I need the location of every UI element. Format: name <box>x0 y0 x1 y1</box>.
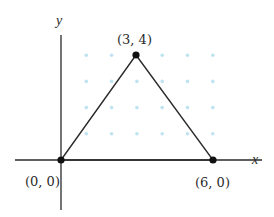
vertex-label-3-4: (3, 4) <box>117 32 152 47</box>
grid-dot <box>211 80 215 84</box>
vertex-3-4 <box>132 51 139 58</box>
grid-dot <box>211 132 215 136</box>
grid-dot <box>211 53 215 57</box>
grid-dot <box>160 80 164 84</box>
vertex-6-0 <box>209 156 216 163</box>
grid-dot <box>186 106 190 110</box>
y-axis-label: y <box>54 13 63 28</box>
grid-dot <box>85 53 89 57</box>
grid-dot <box>110 132 114 136</box>
grid-dot <box>85 106 89 110</box>
grid-dot <box>186 53 190 57</box>
x-axis-label: x <box>251 152 259 167</box>
coordinate-plane-diagram: x y (0, 0) (6, 0) (3, 4) <box>0 0 274 217</box>
grid-dot <box>211 106 215 110</box>
grid-dot <box>85 80 89 84</box>
grid-dot <box>110 53 114 57</box>
dot-grid <box>85 53 215 135</box>
grid-dot <box>85 132 89 136</box>
grid-dot <box>186 132 190 136</box>
grid-dot <box>110 106 114 110</box>
vertex-origin <box>57 156 64 163</box>
grid-dot <box>160 132 164 136</box>
grid-dot <box>110 80 114 84</box>
grid-dot <box>160 53 164 57</box>
vertex-label-6-0: (6, 0) <box>195 175 230 190</box>
vertex-label-origin: (0, 0) <box>25 174 60 189</box>
grid-dot <box>160 106 164 110</box>
grid-dot <box>135 80 139 84</box>
grid-dot <box>135 106 139 110</box>
grid-dot <box>186 80 190 84</box>
grid-dot <box>135 132 139 136</box>
